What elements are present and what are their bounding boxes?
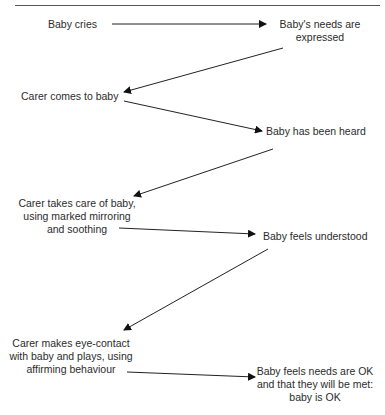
node-line: Baby cries: [48, 18, 97, 31]
node-baby-understood: Baby feels understood: [263, 230, 368, 243]
arrow-expressed-to-carer-comes: [124, 48, 283, 92]
top-rule: [15, 5, 380, 6]
node-carer-comes: Carer comes to baby: [21, 90, 118, 103]
node-line: expressed: [272, 31, 368, 44]
arrow-understood-to-eye-contact: [124, 249, 268, 330]
node-line: Baby feels understood: [263, 230, 368, 243]
node-line: and that they will be met:: [250, 378, 380, 391]
arrow-carer-comes-to-heard: [124, 101, 262, 131]
arrow-heard-to-carer-takes-care: [134, 149, 273, 196]
node-baby-ok: Baby feels needs are OK and that they wi…: [250, 365, 380, 404]
node-line: Baby has been heard: [266, 125, 366, 138]
node-baby-cries: Baby cries: [48, 18, 97, 31]
node-baby-heard: Baby has been heard: [266, 125, 366, 138]
node-carer-eye-contact: Carer makes eye-contact with baby and pl…: [3, 337, 139, 376]
arrow-eye-contact-to-ok: [127, 372, 255, 377]
node-carer-takes-care: Carer takes care of baby, using marked m…: [12, 197, 142, 236]
node-line: baby is OK: [250, 391, 380, 404]
node-line: Carer takes care of baby,: [12, 197, 142, 210]
node-line: and soothing: [12, 223, 142, 236]
node-line: using marked mirroring: [12, 210, 142, 223]
node-line: Carer comes to baby: [21, 90, 118, 103]
node-line: affirming behaviour: [3, 363, 139, 376]
node-needs-expressed: Baby's needs are expressed: [272, 18, 368, 44]
node-line: Baby feels needs are OK: [250, 365, 380, 378]
node-line: Baby's needs are: [272, 18, 368, 31]
node-line: Carer makes eye-contact: [3, 337, 139, 350]
node-line: with baby and plays, using: [3, 350, 139, 363]
